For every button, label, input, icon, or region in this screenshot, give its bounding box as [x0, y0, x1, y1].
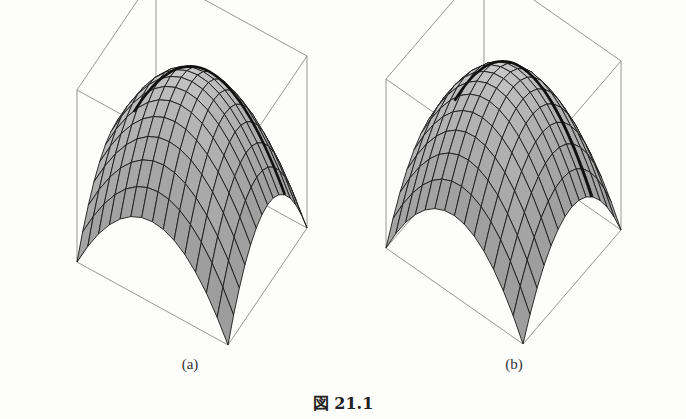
surface-plot-b: [343, 0, 686, 380]
figure-panel-b: [343, 0, 686, 380]
figure-caption: 図 21.1: [0, 390, 686, 414]
surface-plot-a: [0, 0, 343, 380]
panel-label-b: (b): [484, 356, 544, 373]
figure-panel-a: [0, 0, 343, 380]
panel-label-a: (a): [160, 356, 220, 373]
paraboloid-surface: [77, 66, 307, 345]
